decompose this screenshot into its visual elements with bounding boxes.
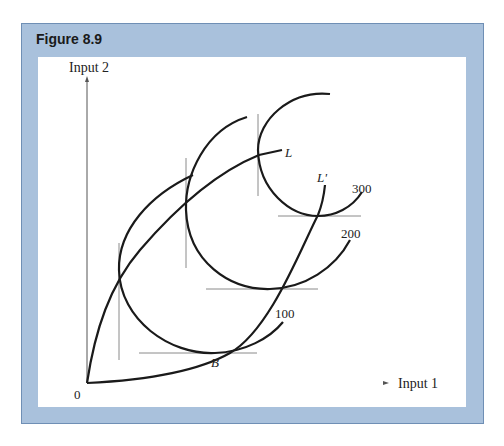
tangent-lines — [119, 114, 361, 360]
isoquant-label-200: 200 — [341, 226, 361, 241]
y-axis-arrow-icon — [85, 76, 89, 82]
isoquant-200 — [186, 117, 350, 289]
expansion-paths — [87, 150, 325, 383]
x-axis-label: Input 1 — [398, 376, 438, 391]
point-label-B: B — [211, 355, 219, 370]
expansion-path-label-L: L — [284, 145, 292, 160]
isoquants — [119, 94, 362, 353]
isoquant-label-100: 100 — [275, 306, 295, 321]
isoquant-diagram: Input 2 Input 1 0 100 200 300 L L' B — [0, 0, 504, 446]
isoquant-label-300: 300 — [352, 181, 372, 196]
isoquant-300 — [258, 94, 362, 216]
x-axis-arrow-icon — [383, 381, 389, 385]
y-axis-label: Input 2 — [69, 60, 109, 75]
origin-label: 0 — [74, 387, 81, 402]
expansion-path-label-L-prime: L' — [316, 170, 327, 185]
